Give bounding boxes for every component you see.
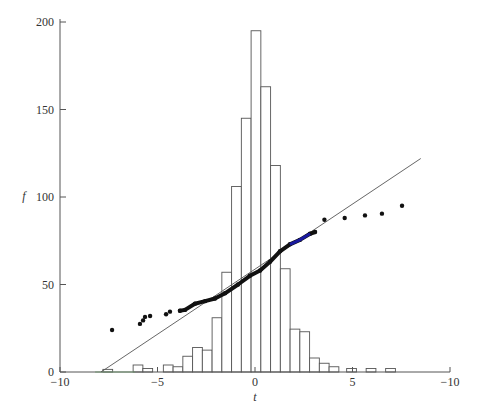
data-point xyxy=(268,260,272,264)
data-point xyxy=(143,315,147,319)
data-point xyxy=(164,312,168,316)
data-point xyxy=(400,204,404,208)
data-point xyxy=(363,213,367,217)
data-point xyxy=(322,218,326,222)
data-point xyxy=(110,328,114,332)
data-point xyxy=(138,322,142,326)
histogram-bar xyxy=(271,166,281,373)
histogram-bar xyxy=(183,356,193,372)
histogram-bar xyxy=(241,118,251,372)
histogram-bar xyxy=(366,369,376,373)
histogram-bar xyxy=(133,365,143,372)
histogram-bar xyxy=(163,365,173,372)
chart: −10−505−10 050100150200 t f xyxy=(0,0,478,415)
histogram-bar xyxy=(193,348,203,373)
y-axis-ticks: 050100150200 xyxy=(36,15,66,379)
histogram-bar xyxy=(329,367,339,372)
data-point xyxy=(258,268,262,272)
y-tick-label: 0 xyxy=(48,365,54,379)
y-tick-label: 150 xyxy=(36,103,54,117)
histogram-bar xyxy=(261,87,271,372)
histogram-bar xyxy=(173,367,183,372)
data-point xyxy=(193,302,197,306)
data-point xyxy=(236,282,240,286)
x-tick-label: 0 xyxy=(252,375,258,389)
histogram-bar xyxy=(202,350,212,372)
x-axis-title: t xyxy=(253,390,257,404)
data-point xyxy=(278,249,282,253)
data-point xyxy=(313,230,317,234)
y-tick-label: 50 xyxy=(42,278,54,292)
data-point xyxy=(203,299,207,303)
data-point xyxy=(178,309,182,313)
histogram-bar xyxy=(143,369,153,373)
histogram-bar xyxy=(290,329,300,372)
histogram-bar xyxy=(222,272,232,372)
y-tick-label: 200 xyxy=(36,15,54,29)
data-point xyxy=(168,309,172,313)
x-tick-label: −5 xyxy=(151,375,164,389)
histogram-bars xyxy=(103,31,396,372)
y-tick-label: 100 xyxy=(36,190,54,204)
data-point xyxy=(148,314,152,318)
histogram-bar xyxy=(310,358,320,372)
histogram-bar xyxy=(347,369,357,373)
data-point xyxy=(343,216,347,220)
data-point xyxy=(380,211,384,215)
x-tick-label: −10 xyxy=(441,375,460,389)
data-point xyxy=(223,291,227,295)
histogram-bar xyxy=(386,369,396,373)
data-point xyxy=(213,296,217,300)
x-tick-label: 5 xyxy=(350,375,356,389)
histogram-bar xyxy=(280,269,290,372)
histogram-bar xyxy=(212,318,222,372)
data-point xyxy=(183,308,187,312)
histogram-bar xyxy=(319,363,329,372)
histogram-bar xyxy=(300,332,310,372)
highlight-segment xyxy=(290,234,310,245)
y-axis-title: f xyxy=(22,189,27,203)
histogram-bar xyxy=(251,31,261,372)
data-point xyxy=(248,274,252,278)
